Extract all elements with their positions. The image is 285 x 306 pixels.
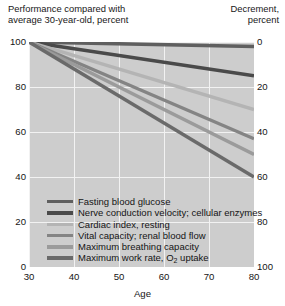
legend-label: Cardiac index, resting [78, 219, 170, 230]
legend: Fasting blood glucoseNerve conduction ve… [47, 196, 262, 264]
legend-swatch [47, 223, 73, 226]
right-axis-caption-line1: Decrement, [179, 3, 279, 14]
y-axis-left-tick-label: 100 [0, 36, 26, 47]
legend-swatch [47, 200, 73, 203]
y-axis-left-tick-label: 60 [0, 126, 26, 137]
x-axis-tick-label: 80 [239, 271, 269, 282]
legend-item: Fasting blood glucose [47, 196, 262, 207]
y-axis-right-tick-label: 0 [257, 36, 285, 47]
legend-item: Maximum breathing capacity [47, 241, 262, 252]
x-axis-tick-label: 70 [194, 271, 224, 282]
legend-label: Maximum breathing capacity [78, 241, 199, 252]
left-axis-caption-line1: Performance compared with [8, 3, 168, 14]
y-axis-left-tick-label: 20 [0, 216, 26, 227]
left-axis-caption-line2: average 30-year-old, percent [8, 14, 168, 25]
y-axis-left-tick-label: 40 [0, 171, 26, 182]
legend-item: Maximum work rate, O2 uptake [47, 252, 262, 263]
series-line [29, 42, 254, 139]
y-axis-right-tick-label: 60 [257, 171, 285, 182]
y-axis-right-tick-label: 40 [257, 126, 285, 137]
legend-swatch [47, 234, 73, 237]
x-axis-tick-label: 40 [59, 271, 89, 282]
legend-swatch [47, 256, 73, 259]
x-axis-label: Age [0, 288, 285, 299]
legend-item: Vital capacity; renal blood flow [47, 230, 262, 241]
series-line [29, 42, 254, 177]
left-axis-caption: Performance compared with average 30-yea… [8, 3, 168, 26]
legend-label: Fasting blood glucose [78, 196, 170, 207]
legend-label: Vital capacity; renal blood flow [78, 230, 206, 241]
chart-figure: Performance compared with average 30-yea… [0, 0, 285, 306]
right-axis-caption: Decrement, percent [179, 3, 279, 26]
legend-label: Maximum work rate, O2 uptake [78, 252, 209, 264]
legend-label: Nerve conduction velocity; cellular enzy… [78, 207, 262, 218]
legend-item: Cardiac index, resting [47, 219, 262, 230]
x-axis-tick-label: 60 [149, 271, 179, 282]
x-axis-tick-label: 50 [104, 271, 134, 282]
right-axis-caption-line2: percent [179, 14, 279, 25]
x-axis-tick-label: 30 [14, 271, 44, 282]
legend-item: Nerve conduction velocity; cellular enzy… [47, 207, 262, 218]
legend-swatch [47, 245, 73, 248]
y-axis-right-tick-label: 20 [257, 81, 285, 92]
legend-swatch [47, 211, 73, 214]
y-axis-left-tick-label: 80 [0, 81, 26, 92]
